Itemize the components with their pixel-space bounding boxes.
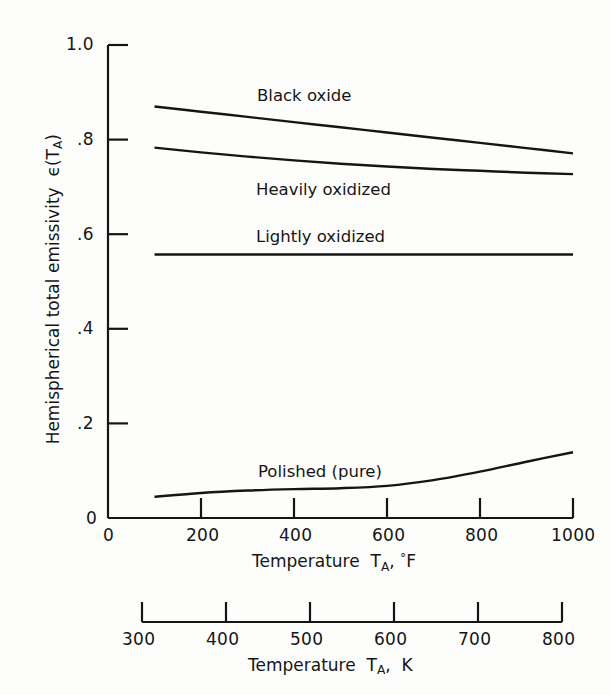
y-axis-title-prefix: Hemispherical total emissivity [43,187,63,444]
curve-label-heavily-oxidized: Heavily oxidized [256,180,391,199]
y-axis-title-symbol-close: ) [43,134,63,141]
curve-black-oxide [155,106,574,153]
x-tick-label-400: 400 [279,525,312,545]
x-tick-label-200: 200 [186,525,219,545]
x-axis-ticks [201,498,573,518]
y-axis-title-subscript: A [51,141,65,149]
curve-heavily-oxidized [155,148,574,174]
x-tick-label-1000: 1000 [551,525,595,545]
y-axis-ticks [108,45,128,423]
y-tick-label-0: 0 [86,508,97,528]
k-axis-title-subscript: A [377,663,385,677]
x-tick-label-600: 600 [372,525,405,545]
k-axis-title-unit: K [401,655,412,675]
emissivity-chart-figure: 0 .2 .4 .6 .8 1.0 0 200 400 600 800 1000… [0,0,611,695]
y-tick-label-0-6: .6 [77,224,94,244]
y-tick-label-0-4: .4 [77,318,94,338]
x-tick-label-0: 0 [103,525,114,545]
k-axis-title-comma: , [385,655,390,675]
kelvin-axis-ticks [142,602,562,622]
y-tick-label-0-8: .8 [77,129,94,149]
k-tick-label-600: 600 [374,629,407,649]
x-axis-title-fahrenheit: Temperature TA, °F [252,551,416,574]
x-axis-title-prefix: Temperature [252,551,360,571]
k-tick-label-500: 500 [290,629,323,649]
k-tick-label-300: 300 [122,629,155,649]
k-tick-label-700: 700 [458,629,491,649]
k-tick-label-400: 400 [206,629,239,649]
k-axis-title-prefix: Temperature [248,655,356,675]
y-tick-label-1-0: 1.0 [66,34,94,54]
y-axis-title: Hemispherical total emissivity ϵ(TA) [43,119,65,459]
k-axis-title-symbol: T [367,655,377,675]
x-axis-title-subscript: A [381,560,389,574]
x-axis-title-symbol: T [371,551,381,571]
x-tick-label-800: 800 [465,525,498,545]
y-axis-title-symbol: ϵ(T [43,149,63,176]
curve-label-lightly-oxidized: Lightly oxidized [256,227,385,246]
curve-label-black-oxide: Black oxide [257,86,351,105]
x-axis-title-kelvin: Temperature TA, K [248,655,413,677]
x-axis-title-comma: , [389,551,394,571]
k-tick-label-800: 800 [542,629,575,649]
y-tick-label-0-2: .2 [77,413,94,433]
x-axis-title-unit: F [406,551,416,571]
curve-label-polished-pure: Polished (pure) [258,462,382,481]
